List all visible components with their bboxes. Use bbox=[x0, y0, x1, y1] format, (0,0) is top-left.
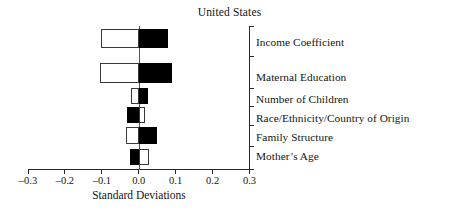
x-tick-3 bbox=[138, 169, 139, 174]
category-label-2: Number of Children bbox=[256, 93, 349, 105]
x-tick-5 bbox=[212, 169, 213, 174]
bar-white-0 bbox=[101, 29, 139, 48]
bar-black-0 bbox=[139, 29, 168, 48]
x-tick-label-3: 0.0 bbox=[119, 175, 159, 186]
category-tick-1 bbox=[249, 56, 254, 57]
category-tick-2 bbox=[249, 88, 254, 89]
category-label-5: Mother’s Age bbox=[256, 150, 319, 162]
category-label-0: Income Coefficient bbox=[256, 36, 344, 48]
category-axis-line bbox=[249, 26, 250, 170]
bar-white-2 bbox=[131, 88, 139, 104]
x-tick-1 bbox=[64, 169, 65, 174]
category-tick-5 bbox=[249, 146, 254, 147]
bar-white-1 bbox=[100, 63, 139, 83]
plot-area: –0.3–0.2–0.10.00.10.20.3 Income Coeffici… bbox=[0, 0, 459, 211]
category-tick-0 bbox=[249, 26, 254, 27]
category-label-1: Maternal Education bbox=[256, 71, 346, 83]
category-label-3: Race/Ethnicity/Country of Origin bbox=[256, 112, 409, 124]
category-tick-4 bbox=[249, 125, 254, 126]
x-tick-0 bbox=[28, 169, 29, 174]
x-axis-title: Standard Deviations bbox=[28, 189, 250, 201]
bar-black-2 bbox=[139, 88, 148, 104]
x-tick-label-6: 0.3 bbox=[230, 175, 270, 186]
x-tick-label-0: –0.3 bbox=[8, 175, 48, 186]
bar-white-5 bbox=[139, 149, 149, 165]
x-tick-4 bbox=[175, 169, 176, 174]
bar-black-3 bbox=[127, 107, 138, 123]
bar-white-4 bbox=[126, 127, 139, 144]
x-tick-label-4: 0.1 bbox=[156, 175, 196, 186]
category-label-4: Family Structure bbox=[256, 131, 333, 143]
x-tick-label-2: –0.1 bbox=[82, 175, 122, 186]
chart-figure: United States –0.3–0.2–0.10.00.10.20.3 I… bbox=[0, 0, 459, 211]
bar-black-1 bbox=[139, 63, 172, 83]
bar-black-5 bbox=[130, 149, 138, 165]
x-tick-label-1: –0.2 bbox=[45, 175, 85, 186]
category-tick-6 bbox=[249, 169, 254, 170]
bar-black-4 bbox=[139, 127, 157, 144]
x-tick-label-5: 0.2 bbox=[193, 175, 233, 186]
category-tick-3 bbox=[249, 106, 254, 107]
bar-white-3 bbox=[139, 107, 145, 123]
x-tick-2 bbox=[101, 169, 102, 174]
